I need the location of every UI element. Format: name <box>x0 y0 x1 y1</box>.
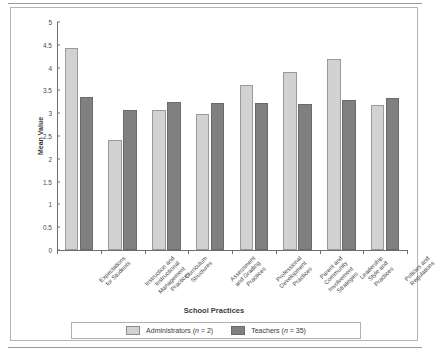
legend-label-teachers: Teachers (n = 35) <box>251 327 306 334</box>
bar-admin-4 <box>240 85 254 250</box>
bar-admin-2 <box>152 110 166 250</box>
y-tick-mark <box>57 90 60 91</box>
y-tick-mark <box>57 181 60 182</box>
legend-item-teachers: Teachers (n = 35) <box>231 326 306 335</box>
bar-admin-3 <box>196 114 210 250</box>
x-tick-mark <box>232 250 233 254</box>
y-tick-label: 4.5 <box>43 41 57 48</box>
x-tick-mark <box>57 250 58 254</box>
bar-teach-7 <box>386 98 400 250</box>
y-tick-label: 1.5 <box>43 178 57 185</box>
bar-teach-2 <box>167 102 181 250</box>
bar-teach-0 <box>80 97 94 250</box>
y-tick-label: 3.5 <box>43 87 57 94</box>
bar-teach-3 <box>211 103 225 250</box>
bar-admin-6 <box>327 59 341 250</box>
x-category-label: Policies andRegulations <box>404 255 437 288</box>
x-category-label: Instruction andInstructionalManagementPr… <box>143 255 192 304</box>
plot-area: Mean Value 54.543.532.521.510.50 <box>57 22 407 250</box>
bar-admin-7 <box>371 105 385 250</box>
bar-admin-0 <box>65 48 79 250</box>
bar-admin-1 <box>108 140 122 250</box>
y-tick-label: 0.5 <box>43 224 57 231</box>
y-tick-mark <box>57 158 60 159</box>
legend-swatch-administrators <box>126 326 140 335</box>
bar-admin-5 <box>283 72 297 250</box>
y-tick-mark <box>57 227 60 228</box>
figure-frame: Mean Value 54.543.532.521.510.50 Expecta… <box>10 7 418 341</box>
chart-legend: Administrators (n = 2) Teachers (n = 35) <box>71 322 361 339</box>
x-tick-mark <box>276 250 277 254</box>
x-tick-mark <box>101 250 102 254</box>
bar-teach-5 <box>298 104 312 250</box>
y-tick-mark <box>57 22 60 23</box>
legend-item-administrators: Administrators (n = 2) <box>126 326 213 335</box>
bar-teach-4 <box>255 103 269 250</box>
x-category-label: CurriculumStructures <box>184 255 215 286</box>
y-tick-label: 5 <box>48 19 57 26</box>
x-category-label: ProfessionalDevelopmentPractices <box>273 255 314 296</box>
page-rule-top <box>8 3 422 4</box>
x-tick-mark <box>145 250 146 254</box>
y-tick-label: 0 <box>48 247 57 254</box>
y-tick-mark <box>57 204 60 205</box>
y-tick-label: 2.5 <box>43 133 57 140</box>
x-tick-mark <box>363 250 364 254</box>
x-tick-mark <box>407 250 408 254</box>
x-category-label: Parent andCommunityInvolvementStrategies <box>316 255 360 299</box>
x-tick-mark <box>320 250 321 254</box>
x-category-label: Assessmentand GradingPractices <box>229 255 268 294</box>
x-axis-title: School Practices <box>11 306 417 315</box>
bar-teach-6 <box>342 100 356 250</box>
x-category-label: Expectationsfor Students <box>98 255 133 290</box>
y-tick-label: 1 <box>48 201 57 208</box>
y-tick-mark <box>57 113 60 114</box>
page-rule-bottom <box>8 347 422 348</box>
bar-teach-1 <box>123 110 137 250</box>
legend-label-administrators: Administrators (n = 2) <box>146 327 213 334</box>
y-tick-mark <box>57 44 60 45</box>
y-tick-label: 3 <box>48 110 57 117</box>
legend-swatch-teachers <box>231 326 245 335</box>
x-category-label: LeadershipStyle andPractices <box>359 255 396 292</box>
y-tick-mark <box>57 67 60 68</box>
y-tick-label: 2 <box>48 155 57 162</box>
y-tick-mark <box>57 136 60 137</box>
y-tick-label: 4 <box>48 64 57 71</box>
x-tick-mark <box>188 250 189 254</box>
